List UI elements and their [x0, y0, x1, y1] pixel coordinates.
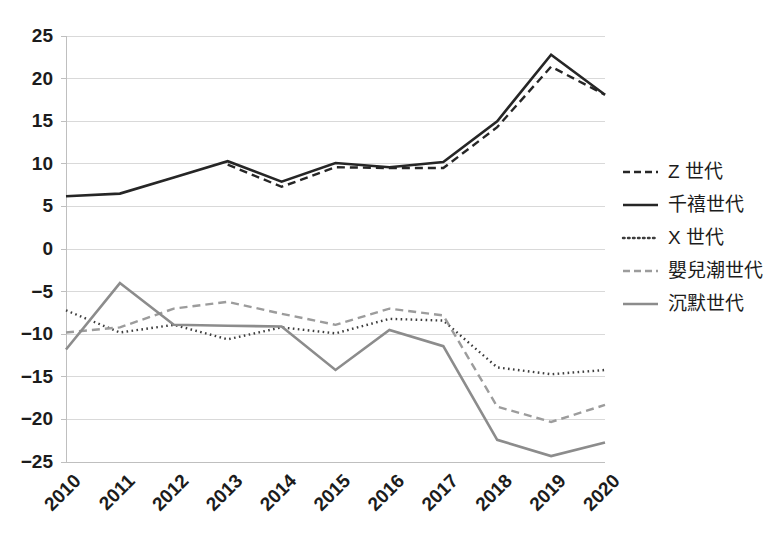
y-tick-label: 15	[32, 110, 54, 131]
generation-trend-line-chart: 2520151050−5−10−15−20−25 201020112012201…	[0, 0, 782, 544]
x-tick-label: 2013	[202, 470, 247, 515]
series-lines-group	[66, 55, 605, 456]
y-tick-label: −20	[21, 408, 53, 429]
x-tick-label: 2017	[417, 470, 462, 515]
y-tick-label: 25	[32, 25, 54, 46]
series-line-4	[66, 302, 605, 422]
legend-label: X 世代	[668, 227, 724, 248]
legend-label: 沉默世代	[668, 293, 744, 314]
legend-label: 千禧世代	[668, 194, 744, 215]
y-tick-label: −5	[31, 281, 53, 302]
x-tick-label: 2011	[95, 470, 139, 514]
x-tick-label: 2010	[40, 470, 85, 515]
x-tick-label: 2016	[363, 470, 408, 515]
y-tick-label: 10	[32, 153, 53, 174]
x-axis-tick-labels: 2010201120122013201420152016201720182019…	[40, 470, 624, 515]
legend-label: 嬰兒潮世代	[668, 260, 763, 281]
y-tick-label: −15	[21, 366, 54, 387]
y-tick-label: −25	[21, 451, 54, 472]
x-tick-label: 2020	[579, 470, 624, 515]
legend-group: Z 世代千禧世代X 世代嬰兒潮世代沉默世代	[623, 161, 763, 314]
x-tick-label: 2012	[148, 470, 193, 515]
y-tick-label: 5	[42, 195, 53, 216]
x-tick-label: 2015	[310, 470, 355, 515]
series-line-2	[66, 55, 605, 196]
y-tick-label: −10	[21, 323, 53, 344]
x-tick-label: 2014	[256, 470, 301, 515]
chart-canvas: 2520151050−5−10−15−20−25 201020112012201…	[0, 0, 782, 544]
gridlines-group	[66, 36, 605, 462]
y-tick-label: 20	[32, 68, 53, 89]
y-tick-label: 0	[42, 238, 53, 259]
x-tick-label: 2019	[525, 470, 570, 515]
y-axis-tick-labels: 2520151050−5−10−15−20−25	[21, 25, 54, 472]
legend-label: Z 世代	[668, 161, 723, 182]
series-line-3	[66, 310, 605, 374]
series-line-5	[66, 283, 605, 456]
x-tick-label: 2018	[471, 470, 516, 515]
series-line-1	[228, 67, 605, 187]
